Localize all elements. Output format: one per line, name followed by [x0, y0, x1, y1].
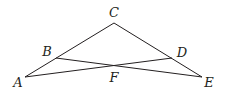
segment-ac: [25, 23, 114, 77]
label-e: E: [203, 75, 214, 90]
segment-ce: [114, 23, 202, 77]
label-b: B: [41, 44, 52, 59]
label-d: D: [176, 45, 188, 60]
geometry-diagram: A B C D E F: [0, 0, 225, 93]
label-a: A: [12, 75, 22, 90]
label-f: F: [108, 70, 119, 85]
segment-be: [56, 58, 202, 77]
label-c: C: [109, 5, 119, 20]
segment-ad: [25, 58, 172, 77]
labels: A B C D E F: [12, 5, 214, 90]
